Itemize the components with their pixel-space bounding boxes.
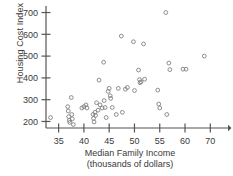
data-point	[157, 102, 161, 106]
data-point	[116, 86, 120, 90]
data-point	[114, 113, 118, 117]
data-point	[102, 60, 106, 64]
data-point	[102, 99, 106, 103]
x-axis-title: Median Family Income (thousands of dolla…	[40, 148, 220, 170]
data-point	[165, 113, 169, 117]
x-tick-label: 60	[180, 136, 190, 146]
y-tick-label: 700	[23, 8, 38, 18]
data-point	[142, 42, 146, 46]
x-tick-label: 35	[54, 136, 64, 146]
data-point	[143, 77, 147, 81]
x-tick-label: 40	[79, 136, 89, 146]
data-point	[168, 68, 172, 72]
y-tick-label: 600	[23, 30, 38, 40]
data-point	[167, 61, 171, 65]
scatter-chart: Housing Cost Index 200300400500600700 35…	[0, 0, 233, 176]
x-tick-label: 55	[155, 136, 165, 146]
data-point	[156, 88, 160, 92]
data-point	[164, 11, 168, 15]
data-point	[110, 106, 114, 110]
y-tick-label: 500	[23, 51, 38, 61]
x-axis-arrow	[228, 125, 232, 131]
x-axis-title-units: (thousands of dollars)	[40, 159, 220, 170]
data-point	[96, 108, 100, 112]
x-axis-ticks: 35404550556070	[54, 124, 216, 147]
x-tick-label: 45	[104, 136, 114, 146]
data-point	[104, 116, 108, 120]
x-axis-title-main: Median Family Income	[40, 148, 220, 159]
data-point	[66, 109, 70, 113]
data-point	[95, 101, 99, 105]
data-point	[137, 68, 141, 72]
x-tick-label: 70	[205, 136, 215, 146]
data-point	[133, 89, 137, 93]
y-tick-label: 300	[23, 95, 38, 105]
data-point	[70, 113, 74, 117]
data-point	[120, 110, 124, 114]
y-tick-label: 400	[23, 73, 38, 83]
data-point	[71, 123, 75, 127]
data-point	[119, 34, 123, 38]
data-point	[49, 116, 53, 120]
data-point	[132, 40, 136, 44]
data-point	[109, 96, 113, 100]
data-points	[49, 11, 206, 127]
data-point	[202, 54, 206, 58]
data-point	[97, 78, 101, 82]
data-point	[158, 106, 162, 110]
x-tick-label: 50	[129, 136, 139, 146]
y-tick-label: 200	[23, 117, 38, 127]
data-point	[69, 96, 73, 100]
data-point	[66, 105, 70, 109]
